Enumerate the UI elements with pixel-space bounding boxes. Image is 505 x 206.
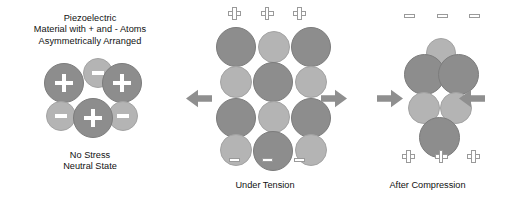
tension-caption-line-1: Under Tension — [180, 180, 350, 191]
tension-arrow-left — [186, 89, 212, 108]
compression-bottom-charges — [402, 150, 480, 163]
charge-minus-icon — [469, 14, 480, 18]
piezoelectric-diagram: PiezoelectricMaterial with + and - Atoms… — [0, 0, 505, 206]
charge-plus-icon — [435, 150, 448, 163]
neutral-heading-line-1: Piezoelectric — [0, 13, 180, 24]
compression-arrow-left — [377, 89, 403, 108]
neutral-caption-line-2: Neutral State — [0, 161, 180, 172]
tension-atom-pos-r2c2 — [253, 62, 293, 102]
compression-top-charges — [404, 14, 480, 18]
plus-icon — [113, 74, 131, 92]
neutral-atom-pos-bottom — [73, 98, 113, 138]
tension-caption: Under Tension — [180, 180, 350, 191]
neutral-atom-pos-upper-left — [44, 63, 84, 103]
tension-atom-neg-r2c1 — [220, 66, 252, 98]
tension-atom-pos-r1c3 — [291, 27, 331, 67]
charge-minus-icon — [437, 14, 448, 18]
charge-minus-icon — [229, 158, 240, 162]
compression-caption-line-1: After Compression — [350, 180, 505, 191]
tension-atom-neg-r3c2 — [258, 101, 290, 133]
charge-plus-icon — [467, 150, 480, 163]
tension-bottom-charges — [229, 158, 305, 162]
charge-minus-icon — [294, 158, 305, 162]
neutral-heading-line-2: Material with + and - Atoms — [0, 24, 180, 35]
compression-arrow-right — [459, 89, 485, 108]
tension-top-charges — [228, 7, 306, 20]
neutral-caption-line-1: No Stress — [0, 150, 180, 161]
charge-plus-icon — [228, 7, 241, 20]
neutral-atom-neg-left — [46, 101, 76, 131]
neutral-caption: No StressNeutral State — [0, 150, 180, 173]
minus-icon — [117, 110, 129, 122]
charge-minus-icon — [262, 158, 273, 162]
charge-plus-icon — [261, 7, 274, 20]
plus-icon — [55, 74, 73, 92]
minus-icon — [55, 110, 67, 122]
compression-caption: After Compression — [350, 180, 505, 191]
charge-plus-icon — [293, 7, 306, 20]
neutral-atom-pos-upper-right — [102, 63, 142, 103]
neutral-heading: PiezoelectricMaterial with + and - Atoms… — [0, 13, 180, 47]
tension-atom-pos-r1c1 — [216, 27, 256, 67]
tension-atom-pos-r4c2 — [253, 131, 293, 171]
plus-icon — [84, 109, 102, 127]
tension-atom-pos-r3c1 — [216, 98, 256, 138]
charge-minus-icon — [404, 14, 415, 18]
tension-atom-neg-r1c2 — [258, 31, 290, 63]
tension-arrow-right — [321, 89, 347, 108]
neutral-heading-line-3: Asymmetrically Arranged — [0, 36, 180, 47]
charge-plus-icon — [402, 150, 415, 163]
